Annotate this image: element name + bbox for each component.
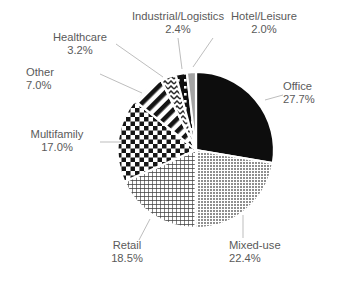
pie-label-mixed-use: Mixed-use 22.4% — [229, 239, 281, 265]
leader-line-healthcare — [116, 44, 163, 77]
pie-label-mixed-use-name: Mixed-use — [229, 239, 281, 252]
leader-line-other — [100, 74, 142, 93]
pie-label-retail: Retail 18.5% — [97, 239, 157, 265]
pie-chart-figure: Office 27.7% Mixed-use 22.4% Retail 18.5… — [0, 0, 340, 286]
pie-label-multifamily-name: Multifamily — [16, 128, 98, 141]
pie-label-multifamily-value: 17.0% — [16, 141, 98, 154]
pie-label-healthcare-name: Healthcare — [44, 31, 116, 44]
pie-slices — [117, 72, 274, 228]
pie-label-office-value: 27.7% — [283, 93, 315, 106]
pie-label-hotel-leisure-value: 2.0% — [218, 23, 310, 36]
pie-label-other-value: 7.0% — [26, 79, 54, 92]
pie-label-mixed-use-value: 22.4% — [229, 252, 281, 265]
pie-label-office-name: Office — [283, 80, 315, 93]
pie-label-hotel-leisure: Hotel/Leisure 2.0% — [218, 10, 310, 36]
leader-line-retail — [139, 219, 150, 240]
pie-label-healthcare: Healthcare 3.2% — [44, 31, 116, 57]
pie-label-hotel-leisure-name: Hotel/Leisure — [218, 10, 310, 23]
pie-label-other: Other 7.0% — [26, 66, 54, 92]
leader-line-industrial-logistics — [178, 38, 182, 69]
pie-slice-mixed-use — [196, 150, 273, 228]
pie-label-retail-name: Retail — [97, 239, 157, 252]
pie-label-multifamily: Multifamily 17.0% — [16, 128, 98, 154]
pie-label-retail-value: 18.5% — [97, 252, 157, 265]
pie-label-office: Office 27.7% — [283, 80, 315, 106]
pie-slice-office — [196, 72, 274, 163]
leader-line-office — [265, 95, 283, 100]
pie-label-other-name: Other — [26, 66, 54, 79]
pie-label-healthcare-value: 3.2% — [44, 44, 116, 57]
leader-line-hotel-leisure — [193, 38, 213, 67]
